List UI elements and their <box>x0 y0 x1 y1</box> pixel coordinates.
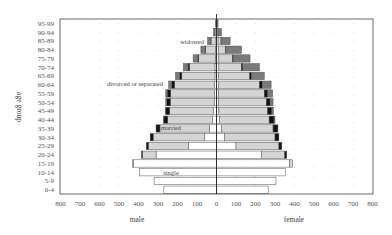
bar-male-divorced-or-separated-50-54 <box>167 99 171 106</box>
annotation-single: single <box>163 169 179 176</box>
bar-male-widowed-70-74 <box>183 64 188 71</box>
bar-female-divorced-or-separated-55-59 <box>264 90 268 97</box>
population-pyramid-chart: 0-45-910-1415-1920-2425-2930-3435-3940-4… <box>0 0 392 235</box>
x-tick-label: 300 <box>270 200 281 208</box>
bar-male-single-0-4 <box>164 186 217 193</box>
bar-male-divorced-or-separated-45-49 <box>166 107 170 114</box>
y-tick-label: 25-29 <box>38 142 55 150</box>
bar-male-single-5-9 <box>154 177 216 184</box>
bar-female-divorced-or-separated-60-64 <box>259 81 262 88</box>
x-tick-label: 800 <box>55 200 66 208</box>
y-tick-label: 5-9 <box>45 177 55 185</box>
y-tick-label: 20-24 <box>38 151 55 159</box>
bar-female-divorced-or-separated-35-39 <box>273 125 278 132</box>
y-tick-label: 70-74 <box>38 64 55 72</box>
bar-male-widowed-55-59 <box>166 90 167 97</box>
bar-male-married-25-29 <box>148 142 188 149</box>
bar-female-married-65-69 <box>218 72 249 79</box>
bar-male-divorced-or-separated-20-24 <box>141 151 142 158</box>
y-tick-label: 10-14 <box>38 169 55 177</box>
bar-female-single-15-19 <box>217 160 290 167</box>
bars <box>133 20 293 194</box>
bar-female-married-45-49 <box>219 107 268 114</box>
bar-male-divorced-or-separated-30-34 <box>150 134 153 141</box>
bar-female-married-60-64 <box>218 81 259 88</box>
bar-male-divorced-or-separated-40-44 <box>164 116 168 123</box>
bar-male-married-50-54 <box>170 99 214 106</box>
bar-female-widowed-75-79 <box>233 55 250 62</box>
x-tick-label: 400 <box>133 200 144 208</box>
bar-male-widowed-90-94 <box>214 29 215 36</box>
bar-female-widowed-60-64 <box>262 81 271 88</box>
bar-male-widowed-75-79 <box>193 55 198 62</box>
bar-female-married-20-24 <box>261 151 284 158</box>
bar-female-single-30-34 <box>217 134 225 141</box>
bar-female-widowed-65-69 <box>252 72 265 79</box>
bar-male-married-40-44 <box>168 116 213 123</box>
bar-male-married-30-34 <box>153 134 205 141</box>
x-tick-labels: 8007006005004003002001000100200300400500… <box>55 200 378 208</box>
y-tick-label: 75-79 <box>38 55 55 63</box>
bar-male-single-35-39 <box>210 125 217 132</box>
bar-male-divorced-or-separated-60-64 <box>172 81 175 88</box>
y-tick-label: 15-19 <box>38 160 55 168</box>
bar-male-single-20-24 <box>156 151 216 158</box>
bar-female-married-70-74 <box>219 64 241 71</box>
bar-male-married-70-74 <box>190 64 215 71</box>
bar-female-divorced-or-separated-25-29 <box>279 142 282 149</box>
y-tick-label: 95-99 <box>38 20 55 28</box>
bar-male-married-80-84 <box>206 46 216 53</box>
bar-male-married-75-79 <box>199 55 216 62</box>
y-tick-label: 0-4 <box>45 186 55 194</box>
y-tick-label: 90-94 <box>38 29 55 37</box>
bar-female-married-40-44 <box>219 116 269 123</box>
bar-male-widowed-65-69 <box>176 72 180 79</box>
y-tick-labels: 0-45-910-1415-1920-2425-2930-3435-3940-4… <box>38 20 55 194</box>
bar-female-single-0-4 <box>217 186 269 193</box>
bar-female-single-10-14 <box>217 169 286 176</box>
bar-male-married-15-19 <box>133 160 134 167</box>
x-axis-label-female: female <box>284 215 305 224</box>
y-tick-label: 60-64 <box>38 81 55 89</box>
y-tick-label: 35-39 <box>38 125 55 133</box>
annotation-married: married <box>161 124 182 131</box>
x-tick-label: 400 <box>289 200 300 208</box>
y-tick-label: 80-84 <box>38 46 55 54</box>
bar-male-married-20-24 <box>142 151 156 158</box>
bar-male-divorced-or-separated-65-69 <box>179 72 181 79</box>
bar-male-divorced-or-separated-55-59 <box>167 90 171 97</box>
bar-female-single-35-39 <box>217 125 222 132</box>
bar-female-married-30-34 <box>224 134 275 141</box>
bar-female-widowed-95-99 <box>217 20 218 27</box>
bar-female-single-25-29 <box>217 142 237 149</box>
bar-female-divorced-or-separated-30-34 <box>275 134 279 141</box>
bar-female-divorced-or-separated-65-69 <box>250 72 252 79</box>
bar-male-widowed-95-99 <box>216 20 217 27</box>
bar-male-divorced-or-separated-35-39 <box>156 125 160 132</box>
bar-male-married-45-49 <box>170 107 214 114</box>
y-tick-label: 40-44 <box>38 116 55 124</box>
bar-female-widowed-85-89 <box>221 37 230 44</box>
bar-female-married-55-59 <box>218 90 264 97</box>
x-tick-label: 300 <box>153 200 164 208</box>
bar-female-married-75-79 <box>219 55 233 62</box>
x-tick-label: 500 <box>309 200 320 208</box>
bar-female-single-5-9 <box>217 177 276 184</box>
x-tick-label: 100 <box>192 200 203 208</box>
bar-female-married-35-39 <box>221 125 273 132</box>
x-tick-label: 500 <box>114 200 125 208</box>
y-tick-label: 50-54 <box>38 99 55 107</box>
x-tick-label: 100 <box>231 200 242 208</box>
bar-male-single-30-34 <box>205 134 217 141</box>
y-tick-label: 55-59 <box>38 90 55 98</box>
y-axis-label: age group <box>15 92 24 122</box>
bar-female-widowed-50-54 <box>270 99 273 106</box>
x-axis-label-male: male <box>130 215 145 224</box>
bar-male-widowed-80-84 <box>201 46 205 53</box>
bar-male-single-25-29 <box>188 142 216 149</box>
bar-female-widowed-45-49 <box>272 107 274 114</box>
x-tick-label: 700 <box>75 200 86 208</box>
annotation-widowed: widowed <box>180 38 205 45</box>
bar-female-divorced-or-separated-45-49 <box>268 107 272 114</box>
bar-female-married-85-89 <box>218 37 221 44</box>
